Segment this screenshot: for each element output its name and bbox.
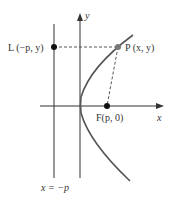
y-axis-label: y	[84, 10, 90, 21]
point-l-label: L (−p, y)	[8, 42, 44, 54]
y-axis-arrow-icon	[77, 13, 83, 21]
point-f-label: F(p, 0)	[96, 112, 123, 124]
point-p-label: P (x, y)	[125, 42, 154, 54]
point-f	[104, 103, 110, 109]
directrix-label: x = −p	[40, 182, 69, 193]
x-axis-arrow-icon	[156, 103, 164, 109]
point-l	[51, 44, 57, 50]
parabola-diagram: y x L (−p, y) P (x, y) F(p, 0) x = −p	[0, 0, 178, 201]
point-p	[115, 44, 121, 50]
x-axis-label: x	[156, 112, 162, 123]
